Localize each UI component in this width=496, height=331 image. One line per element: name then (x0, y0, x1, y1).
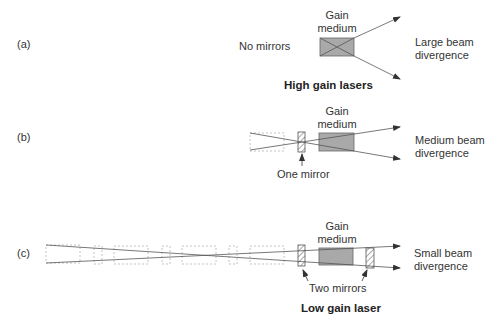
gain-medium-c (319, 248, 353, 265)
mirror-pointer-c-right (362, 270, 367, 281)
gain-label-line2: medium (316, 22, 358, 35)
one-mirror-label: One mirror (277, 168, 330, 181)
gain-label-line2: medium (316, 233, 358, 246)
beam-down-a (354, 56, 400, 79)
gain-label-line1: Gain (316, 9, 358, 22)
gain-label-line1: Gain (316, 220, 358, 233)
panel-c-tag: (c) (17, 247, 30, 260)
gain-label-line2: medium (316, 118, 358, 131)
divergence-label-c: Small beam divergence (414, 247, 472, 273)
divergence-line1: Small beam (414, 247, 472, 260)
mirror-c-left (298, 245, 305, 266)
divergence-line1: Large beam (415, 36, 474, 49)
two-mirrors-label: Two mirrors (309, 282, 366, 295)
divergence-line2: divergence (415, 49, 474, 62)
divergence-line2: divergence (415, 147, 485, 160)
mirror-pointer-c-left (303, 270, 308, 281)
gain-label-line1: Gain (316, 105, 358, 118)
gain-medium-label-a: Gain medium (316, 9, 358, 35)
panel-b-drawing (250, 127, 400, 166)
panel-b-tag: (b) (17, 131, 30, 144)
mirror-c-right (366, 248, 374, 268)
gain-medium-label-c: Gain medium (316, 220, 358, 246)
high-gain-caption: High gain lasers (284, 79, 373, 92)
gain-medium-label-b: Gain medium (316, 105, 358, 131)
beam-up-a (354, 17, 400, 38)
panel-a-tag: (a) (17, 38, 30, 51)
divergence-line2: divergence (414, 260, 472, 273)
no-mirrors-label: No mirrors (239, 40, 290, 53)
divergence-line1: Medium beam (415, 134, 485, 147)
divergence-label-a: Large beam divergence (415, 36, 474, 62)
low-gain-caption: Low gain laser (301, 302, 381, 315)
divergence-label-b: Medium beam divergence (415, 134, 485, 160)
panel-c-drawing (46, 245, 400, 281)
